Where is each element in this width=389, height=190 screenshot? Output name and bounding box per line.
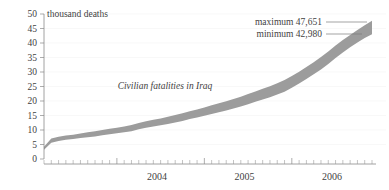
x-axis: 200420052006 <box>44 158 376 182</box>
gridlines <box>42 14 386 145</box>
y-axis-title: thousand deaths <box>47 9 108 19</box>
y-tick-label: 10 <box>28 125 38 135</box>
y-tick-label: 0 <box>32 154 37 164</box>
y-tick-label: 20 <box>28 96 38 106</box>
x-tick-label: 2004 <box>147 171 167 182</box>
y-tick-label: 35 <box>28 53 38 63</box>
x-tick-label: 2006 <box>322 171 342 182</box>
series-label: Civilian fatalities in Iraq <box>118 81 213 91</box>
y-tick-label: 5 <box>32 140 37 150</box>
y-axis: 05101520253035404550 <box>28 9 45 164</box>
y-tick-label: 45 <box>28 24 38 34</box>
annotation-label-maximum: maximum 47,651 <box>255 17 322 27</box>
y-tick-label: 25 <box>28 82 38 92</box>
chart-canvas: 05101520253035404550 200420052006 maximu… <box>0 0 389 190</box>
annotation-label-minimum: minimum 42,980 <box>257 29 323 39</box>
y-tick-label: 40 <box>28 38 38 48</box>
y-tick-label: 15 <box>28 111 38 121</box>
y-tick-label: 50 <box>28 9 38 19</box>
y-tick-label: 30 <box>28 67 38 77</box>
civilian-fatalities-chart: 05101520253035404550 200420052006 maximu… <box>0 0 389 190</box>
x-tick-label: 2005 <box>234 171 254 182</box>
